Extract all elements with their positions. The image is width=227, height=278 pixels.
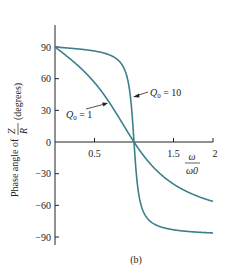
x-ticks: 0.51.52 (88, 138, 217, 159)
x-tick-label: 2 (213, 148, 218, 159)
series-q0-1-line (55, 47, 213, 201)
svg-text:Z: Z (6, 128, 17, 134)
svg-text:Q0 = 10: Q0 = 10 (150, 87, 181, 100)
y-tick-label: 90 (41, 42, 51, 53)
svg-text:ω0: ω0 (186, 165, 198, 176)
svg-text:Q0 = 1: Q0 = 1 (66, 109, 92, 122)
x-tick-label: 0.5 (88, 148, 101, 159)
y-tick-label: −60 (35, 200, 51, 211)
series-q0-10-line (55, 47, 213, 233)
svg-text:Phase angle of: Phase angle of (9, 138, 20, 197)
y-tick-label: 30 (41, 105, 51, 116)
y-tick-label: −90 (35, 232, 51, 243)
svg-text:R: R (18, 128, 29, 135)
annotation-q0-1: Q0 = 1 (66, 103, 108, 123)
y-tick-label: 60 (41, 73, 51, 84)
svg-text:(degrees): (degrees) (12, 83, 24, 120)
y-axis-label: Phase angle of Z R (degrees) (6, 83, 29, 197)
figure-caption: (b) (130, 254, 142, 266)
x-axis-label: ω ω0 (185, 151, 200, 176)
y-tick-label: −30 (35, 168, 51, 179)
y-tick-label: 0 (46, 137, 51, 148)
x-tick-label: 1.5 (167, 148, 180, 159)
svg-text:ω: ω (188, 151, 195, 162)
phase-angle-chart: Phase angle of Z R (degrees) 9060300−30−… (0, 0, 227, 278)
annotation-q0-10: Q0 = 10 (133, 87, 181, 100)
